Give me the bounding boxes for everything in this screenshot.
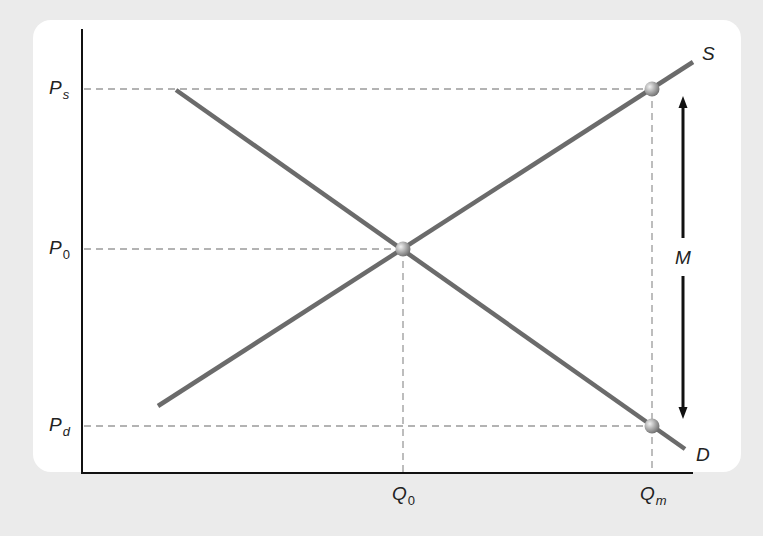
p0-label-sub: 0 bbox=[63, 247, 70, 262]
ps-label: Ps bbox=[49, 78, 69, 97]
q0-label-main: Q bbox=[392, 483, 407, 504]
arrow-up-icon bbox=[679, 96, 688, 108]
guide-lines bbox=[84, 89, 652, 472]
qm-label: Qm bbox=[640, 484, 667, 503]
demand-curve bbox=[176, 90, 685, 449]
qm-label-sub: m bbox=[656, 493, 667, 508]
supply-demand-diagram bbox=[0, 0, 763, 536]
ps-label-sub: s bbox=[63, 87, 70, 102]
q0-label: Q0 bbox=[392, 484, 415, 503]
pd-label-main: P bbox=[49, 414, 62, 435]
demand-price-point bbox=[645, 419, 660, 434]
equilibrium-point bbox=[396, 242, 411, 257]
arrow-down-icon bbox=[679, 407, 688, 419]
demand-curve-label: D bbox=[696, 445, 710, 464]
ps-label-main: P bbox=[49, 77, 62, 98]
q0-label-sub: 0 bbox=[408, 493, 415, 508]
supply-curve bbox=[158, 62, 693, 406]
supply-price-point bbox=[645, 82, 660, 97]
p0-label: P0 bbox=[49, 238, 70, 257]
p0-label-main: P bbox=[49, 237, 62, 258]
qm-label-main: Q bbox=[640, 483, 655, 504]
pd-label: Pd bbox=[49, 415, 70, 434]
wedge-label: M bbox=[675, 248, 691, 267]
pd-label-sub: d bbox=[63, 424, 70, 439]
supply-curve-label: S bbox=[702, 44, 715, 63]
